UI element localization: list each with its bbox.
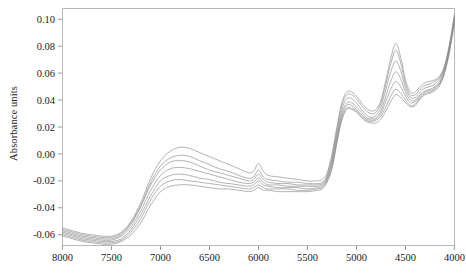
x-tick-label: 4000 (444, 252, 465, 263)
x-tick-label-group: 800075007000650060005500500045004000 (52, 252, 465, 263)
y-tick-label: 0.08 (37, 41, 55, 52)
x-tick-label: 6000 (248, 252, 269, 263)
y-tick-label: -0.04 (33, 202, 56, 213)
x-tick-label: 8000 (52, 252, 73, 263)
x-tick-label: 5000 (346, 252, 367, 263)
spectra-plot: 0.100.080.060.040.020.00-0.02-0.04-0.06 … (0, 0, 466, 274)
x-tick-mark-group (63, 246, 455, 251)
spectrum-line (63, 21, 455, 243)
y-tick-label: -0.02 (33, 175, 55, 186)
x-tick-label: 4500 (395, 252, 416, 263)
y-tick-label: 0.06 (37, 68, 55, 79)
y-tick-mark-group (58, 19, 63, 234)
y-tick-label: -0.06 (33, 229, 55, 240)
x-tick-label: 7500 (101, 252, 122, 263)
spectrum-line (63, 18, 455, 241)
x-tick-label: 7000 (150, 252, 171, 263)
x-tick-label: 5500 (297, 252, 318, 263)
y-tick-label: 0.02 (37, 122, 55, 133)
y-tick-label: 0.04 (37, 95, 56, 106)
plot-frame (63, 9, 455, 246)
spectra-curve-group (63, 14, 455, 245)
x-tick-label: 6500 (199, 252, 220, 263)
y-tick-label-group: 0.100.080.060.040.020.00-0.02-0.04-0.06 (33, 14, 56, 240)
spectrum-line (63, 19, 455, 241)
spectrum-line (63, 15, 455, 238)
y-tick-label: 0.10 (37, 14, 55, 25)
y-tick-label: 0.00 (37, 149, 55, 160)
spectra-figure: Absorbance units 0.100.080.060.040.020.0… (0, 0, 466, 274)
spectrum-line (63, 22, 455, 244)
spectrum-line (63, 14, 455, 237)
